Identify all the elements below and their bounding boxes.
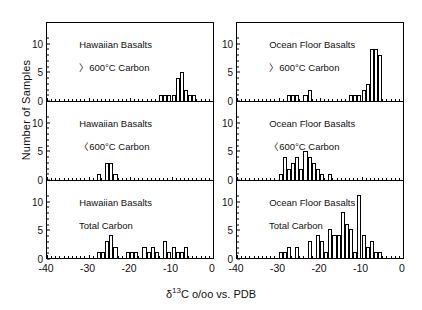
x-tick-minor: [386, 256, 387, 258]
histogram-bars: [47, 32, 213, 101]
y-tick-mark: [47, 43, 50, 44]
y-tick-minor: [237, 253, 239, 254]
y-tick-mark: [47, 122, 50, 123]
y-tick-minor: [47, 168, 49, 169]
panel-ocean-lt600: Ocean Floor Basalts 〈600°C Carbon 0510: [236, 101, 404, 180]
x-tick-minor: [316, 256, 317, 258]
x-tick-minor: [109, 256, 110, 258]
x-tick-mark: [279, 255, 280, 258]
x-tick-minor: [76, 256, 77, 258]
y-tick-label: 5: [37, 146, 47, 157]
y-axis-label: Number of Samples: [20, 40, 32, 180]
y-tick-minor: [47, 174, 49, 175]
x-tick-mark: [172, 255, 173, 258]
y-tick-minor: [237, 207, 239, 208]
x-tick-minor: [80, 256, 81, 258]
histogram-bars: [47, 111, 213, 180]
y-tick-minor: [47, 60, 49, 61]
x-tick-mark: [130, 255, 131, 258]
x-tick-minor: [163, 256, 164, 258]
y-tick-minor: [47, 128, 49, 129]
panel-ocean-total: Ocean Floor Basalts Total Carbon 0510: [236, 180, 404, 259]
y-tick-minor: [47, 157, 49, 158]
panel-hawaiian-total: Hawaiian Basalts Total Carbon 0510: [46, 180, 214, 259]
y-tick-minor: [47, 37, 49, 38]
x-tick-minor: [349, 256, 350, 258]
x-tick-minor: [287, 256, 288, 258]
x-tick-minor: [205, 256, 206, 258]
y-tick-minor: [237, 83, 239, 84]
x-tick-mark: [213, 255, 214, 258]
y-tick-minor: [237, 89, 239, 90]
y-tick-minor: [237, 157, 239, 158]
y-tick-mark: [237, 72, 240, 73]
y-tick-minor: [237, 218, 239, 219]
y-tick-minor: [237, 128, 239, 129]
y-tick-minor: [237, 60, 239, 61]
x-tick-minor: [374, 256, 375, 258]
x-tick-minor: [345, 256, 346, 258]
y-tick-minor: [47, 134, 49, 135]
y-tick-label: 5: [37, 67, 47, 78]
x-tick-minor: [370, 256, 371, 258]
y-tick-minor: [237, 195, 239, 196]
x-tick-minor: [159, 256, 160, 258]
y-tick-minor: [237, 168, 239, 169]
x-tick-minor: [357, 256, 358, 258]
y-tick-minor: [237, 37, 239, 38]
x-tick-minor: [196, 256, 197, 258]
histogram-bars: [47, 189, 213, 258]
x-tick-minor: [308, 256, 309, 258]
y-tick-minor: [47, 224, 49, 225]
panel-hawaiian-gt600: Hawaiian Basalts 〉600°C Carbon 0510: [46, 22, 214, 101]
x-tick-label: -10: [353, 259, 368, 274]
x-tick-label: -30: [80, 259, 95, 274]
y-tick-minor: [237, 55, 239, 56]
y-tick-mark: [237, 201, 240, 202]
x-tick-minor: [258, 256, 259, 258]
y-tick-minor: [237, 224, 239, 225]
y-tick-label: 5: [227, 67, 237, 78]
y-tick-label: 5: [227, 146, 237, 157]
x-tick-minor: [337, 256, 338, 258]
x-tick-minor: [312, 256, 313, 258]
x-tick-minor: [241, 256, 242, 258]
y-tick-mark: [47, 72, 50, 73]
y-tick-label: 10: [222, 38, 237, 49]
x-tick-mark: [320, 255, 321, 258]
x-tick-minor: [291, 256, 292, 258]
y-tick-minor: [47, 55, 49, 56]
y-tick-label: 10: [222, 117, 237, 128]
plot-area: [47, 102, 213, 180]
x-tick-minor: [84, 256, 85, 258]
x-tick-minor: [391, 256, 392, 258]
y-tick-minor: [47, 247, 49, 248]
x-axis-label: δ13C o/oo vs. PDB: [0, 286, 422, 300]
x-tick-minor: [249, 256, 250, 258]
x-tick-minor: [382, 256, 383, 258]
y-tick-minor: [237, 95, 239, 96]
x-tick-minor: [151, 256, 152, 258]
x-tick-minor: [68, 256, 69, 258]
y-tick-minor: [237, 66, 239, 67]
x-tick-minor: [55, 256, 56, 258]
x-tick-minor: [254, 256, 255, 258]
x-tick-minor: [134, 256, 135, 258]
y-tick-minor: [237, 139, 239, 140]
x-tick-minor: [72, 256, 73, 258]
x-tick-label: 0: [209, 259, 215, 274]
y-tick-minor: [47, 89, 49, 90]
x-tick-minor: [64, 256, 65, 258]
y-tick-minor: [237, 134, 239, 135]
x-tick-minor: [262, 256, 263, 258]
y-tick-label: 10: [32, 117, 47, 128]
x-tick-minor: [155, 256, 156, 258]
x-tick-mark: [47, 255, 48, 258]
plot-area: [47, 181, 213, 258]
x-tick-minor: [353, 256, 354, 258]
y-tick-minor: [237, 78, 239, 79]
x-tick-minor: [395, 256, 396, 258]
y-tick-mark: [47, 201, 50, 202]
y-tick-minor: [237, 145, 239, 146]
x-tick-minor: [341, 256, 342, 258]
